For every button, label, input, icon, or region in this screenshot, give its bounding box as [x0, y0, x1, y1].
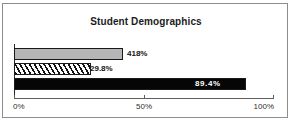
plot-area: 418% 29.8% 89.4% 0% 50% 100% — [14, 44, 274, 98]
bar-label-series-1: 418% — [127, 48, 147, 60]
x-tick-label-100: 100% — [254, 102, 274, 111]
bar-label-series-3: 89.4% — [195, 78, 221, 90]
bar-series-1 — [14, 48, 123, 60]
chart-title: Student Demographics — [0, 16, 292, 27]
x-tick-50 — [144, 95, 145, 99]
x-tick-label-0: 0% — [13, 102, 25, 111]
x-tick-100 — [273, 95, 274, 99]
x-tick-label-50: 50% — [136, 102, 152, 111]
bar-series-2 — [14, 63, 91, 75]
x-tick-0 — [14, 95, 15, 99]
chart-figure: Student Demographics 418% 29.8% 89.4% 0%… — [0, 0, 292, 122]
bar-label-series-2: 29.8% — [90, 63, 113, 75]
